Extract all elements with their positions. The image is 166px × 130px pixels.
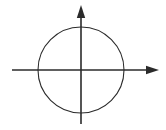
coordinate-plane-circle-diagram: [0, 0, 166, 130]
background-rect: [0, 0, 166, 130]
diagram-canvas: [0, 0, 166, 130]
